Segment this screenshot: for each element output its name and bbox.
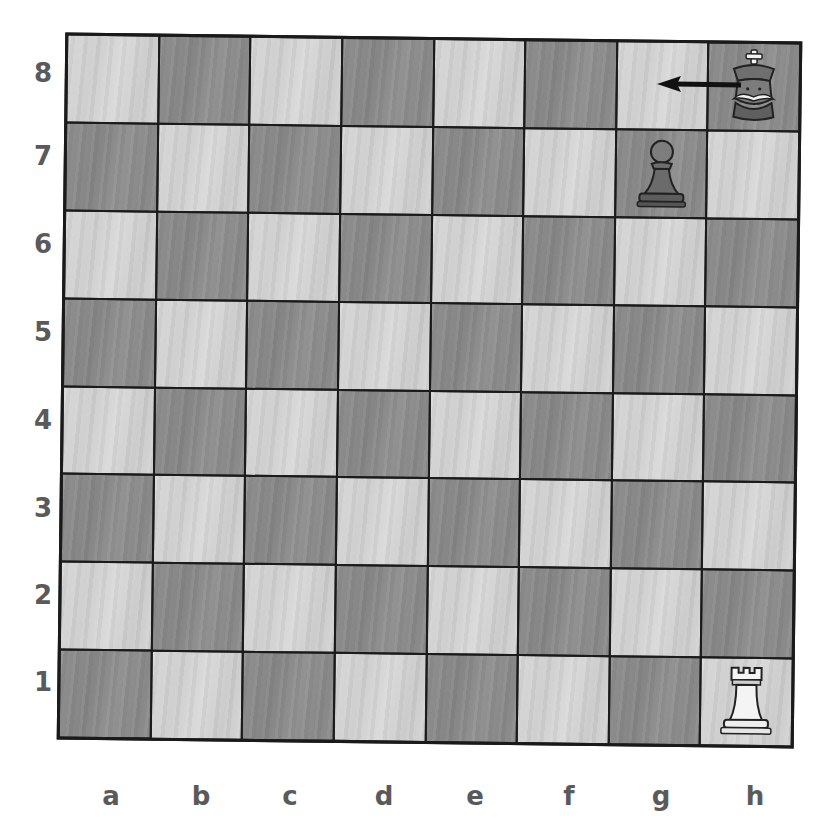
square-e8[interactable] [433, 39, 526, 128]
square-e5[interactable] [430, 303, 523, 392]
square-b6[interactable] [156, 211, 249, 300]
square-c4[interactable] [245, 388, 338, 477]
square-d6[interactable] [339, 214, 432, 303]
square-d1[interactable] [334, 653, 427, 742]
square-a7[interactable] [65, 122, 158, 211]
square-a5[interactable] [63, 298, 156, 387]
square-b5[interactable] [155, 299, 248, 388]
rank-label-1: 1 [28, 669, 58, 695]
file-label-b: b [181, 783, 221, 809]
square-d2[interactable] [335, 565, 428, 654]
square-h1[interactable] [700, 657, 793, 746]
square-b1[interactable] [150, 651, 243, 740]
square-h6[interactable] [705, 218, 798, 307]
square-b8[interactable] [158, 36, 251, 125]
square-e4[interactable] [428, 391, 521, 480]
square-e1[interactable] [425, 654, 518, 743]
square-f2[interactable] [518, 567, 611, 656]
square-a2[interactable] [60, 562, 153, 651]
file-label-a: a [91, 783, 131, 809]
square-h5[interactable] [704, 306, 797, 395]
square-a8[interactable] [66, 35, 159, 124]
rank-label-6: 6 [28, 231, 58, 257]
file-label-g: g [641, 783, 681, 809]
square-g2[interactable] [610, 568, 703, 657]
square-e6[interactable] [431, 215, 524, 304]
file-label-c: c [270, 783, 310, 809]
square-g8[interactable] [616, 41, 709, 130]
square-g3[interactable] [611, 481, 704, 570]
rook-icon [706, 661, 787, 742]
file-label-e: e [455, 783, 495, 809]
black-pawn-piece[interactable] [621, 133, 702, 214]
square-h7[interactable] [707, 130, 800, 219]
square-a3[interactable] [61, 474, 154, 563]
square-a4[interactable] [62, 386, 155, 475]
square-f8[interactable] [524, 40, 617, 129]
square-g7[interactable] [615, 129, 708, 218]
chess-board [57, 33, 803, 749]
square-b3[interactable] [152, 475, 245, 564]
square-g6[interactable] [614, 217, 707, 306]
square-a1[interactable] [59, 650, 152, 739]
rank-label-4: 4 [28, 407, 58, 433]
square-d4[interactable] [337, 389, 430, 478]
chess-diagram: 8 7 6 5 4 3 2 1 a b c d e f g h [0, 0, 831, 840]
rank-label-7: 7 [28, 143, 58, 169]
square-e7[interactable] [432, 127, 525, 216]
square-c7[interactable] [248, 125, 341, 214]
square-c1[interactable] [242, 652, 335, 741]
file-label-d: d [364, 783, 404, 809]
rank-label-8: 8 [28, 60, 58, 86]
square-d7[interactable] [340, 126, 433, 215]
pawn-icon [621, 133, 702, 214]
file-label-h: h [735, 783, 775, 809]
square-c6[interactable] [247, 213, 340, 302]
white-rook-piece[interactable] [706, 661, 787, 742]
square-h2[interactable] [701, 570, 794, 659]
black-king-piece[interactable] [713, 46, 794, 127]
square-d8[interactable] [341, 38, 434, 127]
rank-label-5: 5 [28, 319, 58, 345]
square-g1[interactable] [608, 656, 701, 745]
square-f3[interactable] [519, 479, 612, 568]
square-c8[interactable] [249, 37, 342, 126]
square-f1[interactable] [517, 655, 610, 744]
square-b2[interactable] [151, 563, 244, 652]
square-c3[interactable] [244, 476, 337, 565]
square-h4[interactable] [703, 394, 796, 483]
square-f4[interactable] [520, 392, 613, 481]
square-d5[interactable] [338, 302, 431, 391]
square-d3[interactable] [336, 477, 429, 566]
square-f7[interactable] [523, 128, 616, 217]
square-f6[interactable] [522, 216, 615, 305]
chess-board-frame [57, 33, 803, 749]
square-g5[interactable] [613, 305, 706, 394]
square-g4[interactable] [612, 393, 705, 482]
square-a6[interactable] [64, 210, 157, 299]
square-e3[interactable] [427, 478, 520, 567]
file-label-f: f [549, 783, 589, 809]
square-b7[interactable] [157, 124, 250, 213]
square-c2[interactable] [243, 564, 336, 653]
rank-label-3: 3 [28, 495, 58, 521]
square-b4[interactable] [154, 387, 247, 476]
square-f5[interactable] [521, 304, 614, 393]
square-h8[interactable] [708, 42, 801, 131]
cartoon-king-icon [713, 46, 794, 127]
square-h3[interactable] [702, 482, 795, 571]
square-e2[interactable] [426, 566, 519, 655]
square-c5[interactable] [246, 300, 339, 389]
rank-label-2: 2 [28, 582, 58, 608]
